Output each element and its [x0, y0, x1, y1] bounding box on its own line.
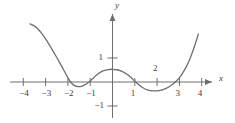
- x-tick-label: 3: [175, 89, 180, 98]
- function-graph-figure: −4−3−2−112341−1 x y: [0, 0, 235, 123]
- graph-canvas: [0, 0, 235, 123]
- y-tick-label: 1: [99, 53, 104, 62]
- y-axis-label: y: [115, 1, 119, 10]
- x-tick-label: −4: [19, 89, 29, 98]
- x-tick-label: 4: [198, 89, 203, 98]
- y-tick-label: −1: [95, 101, 105, 110]
- x-tick-label: −2: [64, 89, 74, 98]
- x-tick-label: −3: [42, 89, 52, 98]
- function-curve: [30, 24, 198, 91]
- x-tick-label: 1: [131, 89, 136, 98]
- x-axis-label: x: [219, 74, 223, 83]
- x-tick-label: 2: [153, 64, 158, 73]
- y-axis-arrow-icon: [110, 14, 116, 21]
- x-tick-label: −1: [86, 89, 96, 98]
- x-axis-arrow-icon: [205, 79, 212, 85]
